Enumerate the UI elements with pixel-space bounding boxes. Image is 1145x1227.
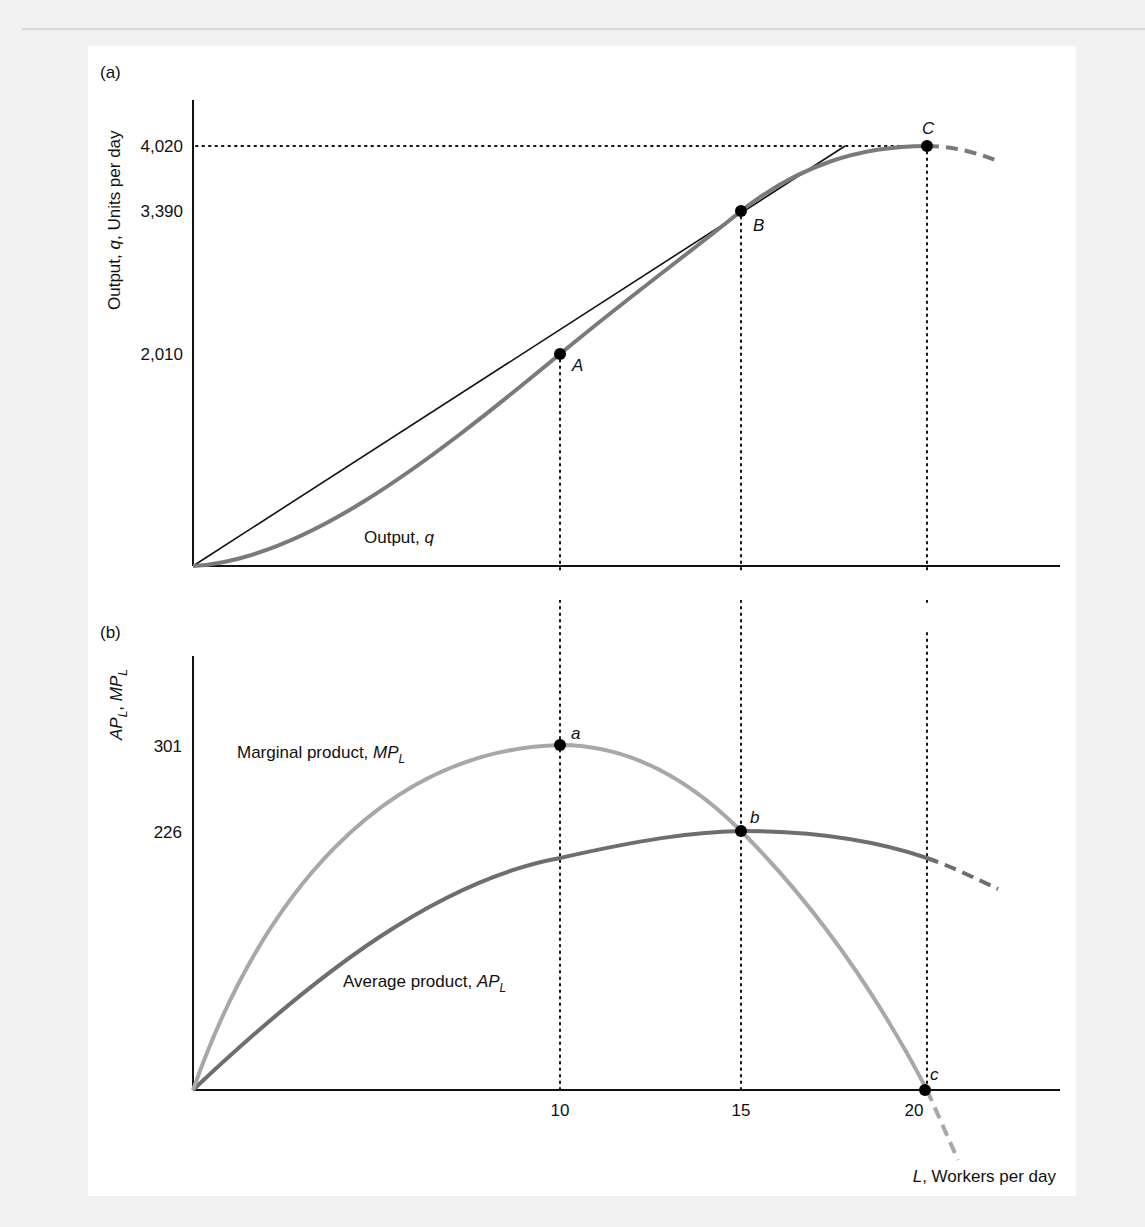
panel-a-ytick-3390: 3,390: [140, 202, 183, 221]
vertical-guides: [560, 152, 927, 1090]
mp-curve-label: Marginal product, MPL: [237, 743, 405, 766]
output-curve-dashed: [927, 146, 995, 160]
point-A-label: A: [571, 356, 583, 375]
ap-curve-dashed: [927, 858, 998, 889]
panel-a-tag: (a): [100, 63, 121, 82]
point-B-label: B: [753, 216, 764, 235]
panel-b-xtick-10: 10: [551, 1101, 570, 1120]
point-a-label: a: [571, 724, 580, 743]
panel-b-ytick-301: 301: [154, 737, 182, 756]
panel-a-ytick-2010: 2,010: [140, 345, 183, 364]
point-c: [919, 1084, 931, 1096]
panel-b-y-axis-label: APL, MPL: [107, 669, 130, 741]
production-chart: (a) Output, q, Units per day 4,020 3,390…: [0, 0, 1145, 1227]
point-c-label: c: [930, 1065, 939, 1084]
panel-b-tag: (b): [100, 623, 121, 642]
output-curve-label: Output, q: [364, 528, 434, 547]
panel-b-xtick-15: 15: [732, 1101, 751, 1120]
point-A: [554, 348, 566, 360]
ap-curve-label: Average product, APL: [343, 972, 506, 995]
panel-b: (b) APL, MPL 301 226 10 15 20 L, Workers…: [100, 572, 1060, 1186]
panel-a-ytick-4020: 4,020: [140, 137, 183, 156]
point-C-label: C: [922, 119, 935, 138]
panel-b-xtick-20: 20: [905, 1101, 924, 1120]
point-b: [735, 825, 747, 837]
panel-a-y-axis-label: Output, q, Units per day: [105, 130, 124, 310]
point-a: [554, 739, 566, 751]
point-C: [921, 140, 933, 152]
point-B: [735, 205, 747, 217]
panel-a: (a) Output, q, Units per day 4,020 3,390…: [100, 63, 1060, 628]
panel-b-x-axis-label: L, Workers per day: [913, 1167, 1057, 1186]
mp-curve-dashed: [927, 1090, 958, 1160]
panel-b-ytick-226: 226: [154, 823, 182, 842]
panel-a-tangent-ray: [193, 146, 845, 566]
point-b-label: b: [750, 808, 759, 827]
